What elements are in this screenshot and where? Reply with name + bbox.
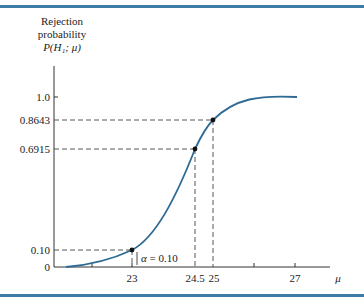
y-tick-label-1-0: 1.0 — [36, 91, 50, 103]
x-tick-label-24-5: 24.5 — [185, 272, 205, 284]
x-tick-label-25: 25 — [209, 272, 221, 284]
reference-lines — [54, 120, 213, 267]
y-tick-label-0-10: 0.10 — [31, 244, 51, 256]
alpha-annotation: α = 0.10 — [141, 252, 178, 264]
y-axis-label-line2: probability — [38, 28, 87, 40]
y-tick-label-0-8643: 0.8643 — [20, 114, 51, 126]
data-point-24-5 — [193, 147, 198, 152]
y-axis-label-line1: Rejection — [41, 15, 84, 27]
power-curve-chart: Rejection probability P(H₁; μ) 1.0 0.864… — [0, 0, 364, 302]
x-tick-label-27: 27 — [290, 272, 302, 284]
data-point-23 — [130, 248, 135, 253]
power-curve — [66, 96, 297, 267]
data-point-25 — [211, 118, 216, 123]
y-tick-label-0-6915: 0.6915 — [20, 143, 51, 155]
y-axis-label-line3: P(H₁; μ) — [42, 41, 81, 54]
y-tick-label-0: 0 — [45, 261, 51, 273]
x-axis-label-mu: μ — [334, 272, 341, 284]
x-tick-label-23: 23 — [127, 272, 139, 284]
